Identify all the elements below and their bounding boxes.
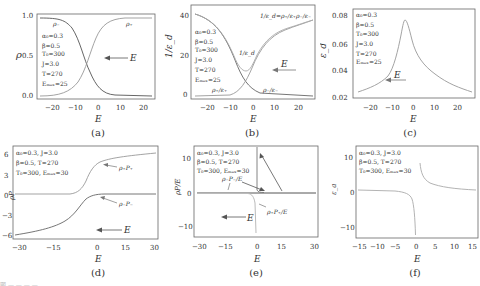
x-tick: 10 (450, 243, 459, 251)
svg-text:T₀=300: T₀=300 (195, 46, 218, 53)
y-tick: 0.06 (332, 41, 348, 49)
y-tick: 0 (183, 91, 187, 99)
svg-text:J=3.0: J=3.0 (355, 40, 373, 48)
chart-f: ε_a 10 0 −10 −15 −10 −5 0 5 10 15 E α₀=0… (320, 143, 480, 280)
y-tick: 20 (180, 52, 189, 60)
x-tick: −10 (223, 104, 238, 112)
y-tick: 0 (187, 190, 191, 198)
label-rho-plus: ρ₊ (125, 20, 133, 28)
x-tick: −20 (363, 104, 378, 112)
y-tick: −10 (178, 223, 193, 231)
curve-eps-a-negative (358, 190, 416, 235)
y-axis-label: ρP/E (174, 179, 182, 196)
chart-d: ρP 6 3 0 −3 −6 −30 −15 0 15 30 E α₀=0.3,… (0, 143, 160, 280)
svg-text:T₀=300, Eₘₐₓ=30: T₀=300, Eₘₐₓ=30 (197, 167, 249, 174)
y-tick: 0.08 (332, 12, 348, 20)
y-tick: 0.5 (22, 52, 33, 60)
x-axis-label: E (249, 114, 257, 124)
x-tick: 30 (310, 243, 319, 251)
x-tick: −20 (200, 104, 215, 112)
x-tick: 20 (294, 104, 303, 112)
y-axis-label: 1/ε_d (164, 34, 175, 58)
y-axis-label: ε_d (320, 43, 329, 58)
x-tick: 10 (116, 104, 125, 112)
y-tick: 0 (4, 192, 8, 200)
caption-b: (b) (232, 127, 272, 138)
x-tick: 0 (411, 104, 415, 112)
x-tick: 20 (139, 104, 148, 112)
x-tick: 0 (96, 104, 100, 112)
arrow-head-icon (104, 56, 110, 61)
x-tick: 0 (95, 244, 99, 252)
label-e: E (280, 59, 288, 69)
y-tick: 3 (4, 172, 8, 180)
params-block: α₀=0.3, J=3.0 β=0.5, T=270 T₀=300, Eₘₐₓ=… (359, 149, 411, 174)
svg-text:T₀=300: T₀=300 (42, 50, 65, 57)
svg-text:T=270: T=270 (195, 66, 216, 73)
svg-text:Eₘₐₓ=25: Eₘₐₓ=25 (356, 58, 382, 65)
x-tick: 15 (468, 243, 477, 251)
x-axis-label: E (253, 254, 261, 264)
caption-d: (d) (78, 267, 118, 278)
x-axis-label: E (409, 114, 417, 124)
params-block: α₀=0.3, J=3.0 β=0.5, T=270 T₀=300, Eₘₐₓ=… (16, 149, 68, 176)
x-tick: −10 (370, 243, 385, 251)
y-tick: −3 (2, 212, 12, 220)
arrow-label-1 (228, 183, 230, 190)
x-tick: −5 (390, 243, 400, 251)
svg-text:β=0.5: β=0.5 (42, 42, 60, 50)
svg-text:α₀=0.3, J=3.0: α₀=0.3, J=3.0 (359, 149, 401, 157)
svg-text:β=0.5, T=270: β=0.5, T=270 (359, 158, 402, 166)
arrow-head-icon (100, 196, 105, 200)
svg-text:α₀=0.3, J=3.0: α₀=0.3, J=3.0 (16, 149, 58, 157)
label-rho-minus-p-minus: ρ₋P₋ (118, 200, 133, 208)
y-tick: 40 (180, 12, 189, 20)
x-tick: 0 (255, 243, 259, 251)
x-axis-label: E (94, 114, 102, 124)
arrow-head-icon (103, 163, 108, 167)
chart-e: ρP/E 10 0 −10 −30 −15 0 15 30 E α₀=0.3, … (160, 143, 320, 280)
svg-text:α₀=0.3, J=3.0: α₀=0.3, J=3.0 (197, 149, 239, 157)
svg-text:T₀=300, Eₘₐₓ=30: T₀=300, Eₘₐₓ=30 (359, 167, 411, 174)
arrow-label-4 (259, 204, 266, 207)
x-tick: −15 (352, 243, 367, 251)
chart-c: ε_d 0.08 0.06 0.04 0.02 −20 −10 0 10 20 … (320, 0, 480, 143)
y-tick: 1.0 (22, 12, 33, 20)
svg-text:T=270: T=270 (42, 70, 63, 77)
x-tick: 15 (277, 243, 286, 251)
x-tick: 30 (150, 244, 159, 252)
x-tick: −15 (46, 244, 61, 252)
x-tick: 10 (430, 104, 439, 112)
params-block: α₀=0.3, J=3.0 β=0.5, T=270 T₀=300, Eₘₐₓ=… (197, 149, 249, 174)
x-tick: 0 (251, 104, 255, 112)
svg-text:α₀=0.3: α₀=0.3 (356, 11, 377, 18)
y-tick: −6 (2, 232, 13, 240)
x-tick: −30 (192, 243, 207, 251)
x-tick: −15 (218, 243, 233, 251)
svg-text:Eₘₐₓ=25: Eₘₐₓ=25 (42, 80, 68, 87)
params-block: α₀=0.3 β=0.5 T₀=300 J=3.0 T=270 Eₘₐₓ=25 (194, 28, 221, 83)
arrow-head-icon (272, 68, 278, 73)
arrow-head-icon (221, 215, 227, 220)
caption-a: (a) (78, 127, 118, 138)
chart-a: ρ 1.0 0.5 0.0 −20 −10 0 10 20 E ρ₋ ρ₊ α₀… (0, 0, 160, 143)
label-rho-minus-p-minus-over-e: ρ₋P₋/E (221, 175, 243, 183)
y-tick: 0.04 (332, 67, 348, 75)
x-tick: −10 (385, 104, 400, 112)
panel-c: ε_d 0.08 0.06 0.04 0.02 −20 −10 0 10 20 … (320, 0, 480, 143)
caption-e: (e) (236, 267, 276, 278)
svg-text:T=270: T=270 (356, 50, 377, 57)
x-axis-label: E (413, 254, 421, 264)
label-e: E (393, 70, 401, 80)
x-tick: 20 (453, 104, 462, 112)
panel-d: ρP 6 3 0 −3 −6 −30 −15 0 15 30 E α₀=0.3,… (0, 143, 160, 280)
svg-text:T₀=300: T₀=300 (356, 30, 379, 37)
svg-text:β=0.5: β=0.5 (356, 21, 374, 29)
curve-rho-minus-p-minus (15, 194, 156, 235)
svg-text:α₀=0.3: α₀=0.3 (195, 28, 216, 35)
label-rho-plus-p-plus-over-e: ρ₊P₊/E (266, 208, 288, 216)
curve-eps-a-positive (420, 163, 476, 190)
params-block: α₀=0.3 β=0.5 T₀=300 J=3.0 T=270 Eₘₐₓ=25 (41, 32, 68, 87)
arrow-head-icon (96, 228, 102, 233)
label-rho-minus: ρ₋ (52, 20, 60, 28)
